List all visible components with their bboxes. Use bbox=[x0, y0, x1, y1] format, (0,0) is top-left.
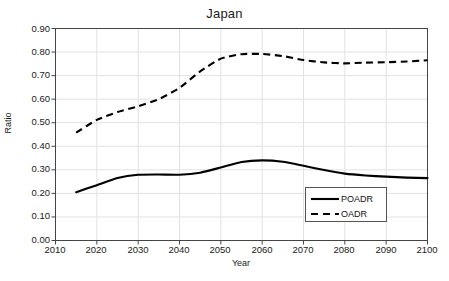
legend-item-poadr: POADR bbox=[306, 191, 388, 206]
plot-area bbox=[0, 0, 449, 281]
legend-swatch-solid-line bbox=[310, 193, 340, 205]
legend-label: POADR bbox=[341, 194, 373, 204]
legend-label: OADR bbox=[341, 209, 367, 219]
chart-figure: Japan Ratio 0.90 0.80 0.70 0.60 0.50 0.4… bbox=[0, 0, 449, 281]
series-line-oadr bbox=[76, 54, 427, 133]
legend-item-oadr: OADR bbox=[306, 206, 388, 221]
legend-swatch-dashed-line bbox=[310, 208, 340, 220]
x-axis-label: Year bbox=[55, 258, 427, 268]
legend[interactable]: POADR OADR bbox=[305, 187, 387, 222]
